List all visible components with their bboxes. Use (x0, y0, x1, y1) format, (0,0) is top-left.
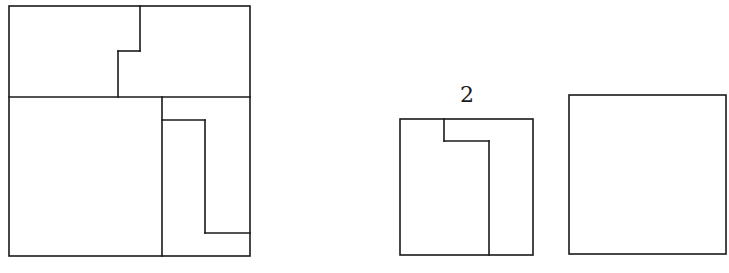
composite-square-figure (9, 6, 250, 256)
piece-2-outline (400, 119, 533, 255)
empty-square-outline (569, 95, 726, 254)
empty-square-figure (569, 95, 726, 254)
figures-svg (0, 0, 729, 273)
piece-2-figure (400, 119, 533, 255)
composite-square-outline (9, 6, 250, 256)
piece-label-2: 2 (460, 84, 474, 106)
diagram-canvas: 2 (0, 0, 729, 273)
